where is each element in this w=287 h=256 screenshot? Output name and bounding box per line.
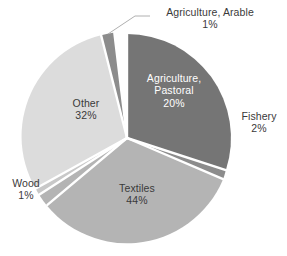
pie-label-wood: Wood 1% bbox=[2, 177, 50, 202]
pie-label-fishery-name: Fishery bbox=[233, 110, 285, 122]
pie-label-agriculture-pastoral-name-line2: Pastoral bbox=[134, 84, 214, 96]
pie-label-wood-value: 1% bbox=[2, 189, 50, 201]
pie-label-fishery-value: 2% bbox=[233, 122, 285, 134]
pie-label-textiles-name: Textiles bbox=[106, 182, 168, 194]
pie-label-agriculture-arable-value: 1% bbox=[148, 18, 272, 30]
pie-label-other-name: Other bbox=[55, 97, 117, 109]
pie-label-agriculture-pastoral-name-line1: Agriculture, bbox=[134, 72, 214, 84]
pie-label-other: Other 32% bbox=[55, 97, 117, 122]
pie-label-agriculture-arable: Agriculture, Arable 1% bbox=[148, 6, 272, 31]
pie-chart: Agriculture, Arable 1% Agriculture, Past… bbox=[0, 0, 287, 256]
pie-label-textiles-value: 44% bbox=[106, 194, 168, 206]
pie-label-agriculture-pastoral: Agriculture, Pastoral 20% bbox=[134, 72, 214, 109]
pie-label-wood-name: Wood bbox=[2, 177, 50, 189]
pie-label-textiles: Textiles 44% bbox=[106, 182, 168, 207]
pie-label-fishery: Fishery 2% bbox=[233, 110, 285, 135]
pie-label-agriculture-pastoral-value: 20% bbox=[134, 97, 214, 109]
pie-label-agriculture-arable-name: Agriculture, Arable bbox=[148, 6, 272, 18]
pie-label-other-value: 32% bbox=[55, 109, 117, 121]
